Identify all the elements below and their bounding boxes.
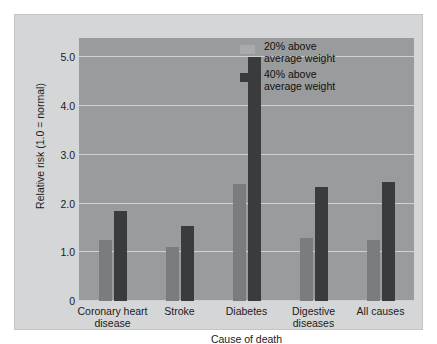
x-tick-label-line: disease bbox=[63, 317, 163, 329]
gridline-1.0 bbox=[79, 251, 414, 252]
y-tick-label: 1.0 bbox=[35, 247, 75, 257]
bar bbox=[382, 182, 395, 301]
chart-figure: 01.02.03.04.05.0 Relative risk (1.0 = no… bbox=[14, 14, 423, 330]
legend-label: 40% aboveaverage weight bbox=[264, 68, 335, 92]
legend-label-line: average weight bbox=[264, 52, 335, 64]
bar bbox=[166, 247, 179, 301]
bar bbox=[315, 187, 328, 301]
bar bbox=[367, 240, 380, 301]
gridline-2.0 bbox=[79, 203, 414, 204]
x-tick-label: All causes bbox=[331, 305, 431, 317]
legend-item[interactable]: 40% aboveaverage weight bbox=[240, 69, 365, 95]
x-tick-label-line: All causes bbox=[331, 305, 431, 317]
legend-label-line: 20% above bbox=[264, 40, 335, 52]
bar bbox=[114, 211, 127, 301]
gridline-3.0 bbox=[79, 154, 414, 155]
bar bbox=[233, 184, 246, 301]
legend-item[interactable]: 20% aboveaverage weight bbox=[240, 41, 365, 67]
gridline-0 bbox=[79, 300, 414, 301]
bar bbox=[300, 238, 313, 301]
x-tick-label-line: diseases bbox=[264, 317, 364, 329]
bar bbox=[99, 240, 112, 301]
legend-label-line: 40% above bbox=[264, 68, 335, 80]
legend-swatch bbox=[240, 73, 255, 82]
chart-legend: 20% aboveaverage weight40% aboveaverage … bbox=[240, 41, 365, 97]
legend-swatch bbox=[240, 45, 255, 54]
gridline-4.0 bbox=[79, 105, 414, 106]
bar bbox=[181, 226, 194, 301]
x-axis-title: Cause of death bbox=[79, 333, 414, 344]
x-axis-tick-labels: Coronary heartdiseaseStrokeDiabetesDiges… bbox=[79, 305, 414, 331]
y-axis-title: Relative risk (1.0 = normal) bbox=[34, 46, 46, 246]
legend-label: 20% aboveaverage weight bbox=[264, 40, 335, 64]
legend-label-line: average weight bbox=[264, 80, 335, 92]
